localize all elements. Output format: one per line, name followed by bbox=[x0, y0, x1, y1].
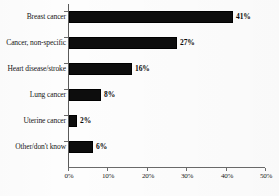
x-axis-tick bbox=[68, 168, 69, 171]
x-axis-tick-label: 50% bbox=[260, 172, 272, 180]
bar bbox=[69, 89, 101, 101]
x-axis-tick-label: 30% bbox=[181, 172, 193, 180]
chart-row: Breast cancer 41% bbox=[0, 9, 279, 35]
bar bbox=[69, 37, 177, 49]
x-axis-tick-label: 20% bbox=[142, 172, 154, 180]
bar bbox=[69, 141, 93, 153]
x-axis-line bbox=[68, 167, 265, 168]
bar-value-label: 16% bbox=[135, 64, 150, 73]
x-axis-tick-label: 40% bbox=[221, 172, 233, 180]
category-label: Uterine cancer bbox=[0, 116, 66, 125]
bar-chart: Breast cancer 41% Cancer, non-specific 2… bbox=[0, 0, 279, 196]
x-axis-tick bbox=[147, 168, 148, 171]
plot-area: Breast cancer 41% Cancer, non-specific 2… bbox=[0, 0, 279, 196]
bar bbox=[69, 115, 77, 127]
x-axis-tick bbox=[107, 168, 108, 171]
bar bbox=[69, 11, 233, 23]
category-label: Breast cancer bbox=[0, 12, 66, 21]
chart-row: Cancer, non-specific 27% bbox=[0, 35, 279, 61]
category-label: Other/don't know bbox=[0, 142, 66, 151]
chart-row: Lung cancer 8% bbox=[0, 87, 279, 113]
chart-row: Heart disease/stroke 16% bbox=[0, 61, 279, 87]
x-axis-tick bbox=[186, 168, 187, 171]
chart-row: Other/don't know 6% bbox=[0, 139, 279, 165]
bar-value-label: 27% bbox=[180, 38, 195, 47]
chart-row: Uterine cancer 2% bbox=[0, 113, 279, 139]
bar-value-label: 8% bbox=[104, 90, 115, 99]
x-axis-tick bbox=[265, 168, 266, 171]
bar-value-label: 41% bbox=[236, 12, 251, 21]
x-axis-tick-label: 10% bbox=[102, 172, 114, 180]
category-label: Cancer, non-specific bbox=[0, 38, 66, 47]
category-label: Lung cancer bbox=[0, 90, 66, 99]
bar-value-label: 2% bbox=[80, 116, 91, 125]
x-axis-tick-label: 0% bbox=[65, 172, 74, 180]
bar-value-label: 6% bbox=[96, 142, 107, 151]
category-label: Heart disease/stroke bbox=[0, 64, 66, 73]
x-axis-tick bbox=[226, 168, 227, 171]
bar bbox=[69, 63, 132, 75]
